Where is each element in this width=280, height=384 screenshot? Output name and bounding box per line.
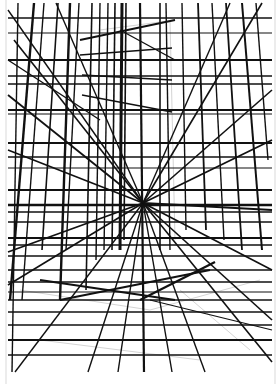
converging-line	[14, 40, 143, 203]
sketch-line	[180, 290, 250, 350]
converging-line	[143, 203, 172, 372]
vertical-line	[42, 3, 58, 250]
perspective-line-drawing	[0, 0, 280, 384]
converging-line	[60, 270, 210, 300]
vertical-line	[198, 3, 206, 230]
vertical-line	[256, 3, 268, 160]
vertical-line	[140, 3, 144, 372]
vertical-line	[12, 3, 18, 372]
converging-line	[143, 203, 205, 372]
vertical-line	[104, 3, 108, 250]
converging-line	[143, 203, 272, 270]
vertical-line	[120, 3, 122, 250]
converging-line	[8, 95, 143, 203]
vertical-line	[86, 3, 92, 290]
vertical-line	[182, 3, 186, 230]
vertical-line	[166, 3, 170, 250]
